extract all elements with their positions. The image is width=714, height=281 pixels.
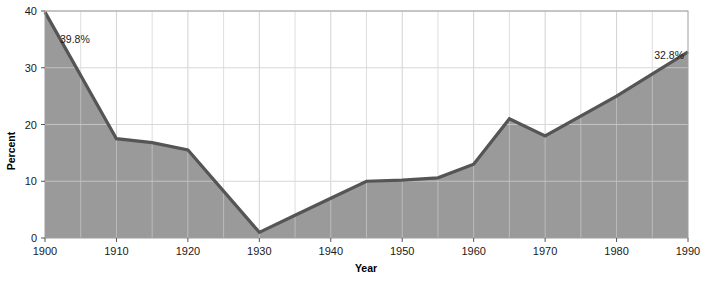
x-tick-label: 1990 (676, 245, 700, 257)
x-axis-ticks: 1900191019201930194019501960197019801990 (33, 238, 700, 257)
x-tick-label: 1910 (104, 245, 128, 257)
y-tick-label: 10 (25, 175, 37, 187)
y-axis-ticks: 010203040 (25, 5, 45, 244)
x-tick-label: 1980 (604, 245, 628, 257)
annotation-end-value: 32.8% (654, 49, 684, 61)
y-tick-label: 40 (25, 5, 37, 17)
chart-container: 1900191019201930194019501960197019801990… (0, 0, 714, 281)
x-tick-label: 1960 (461, 245, 485, 257)
x-tick-label: 1900 (33, 245, 57, 257)
x-tick-label: 1930 (247, 245, 271, 257)
y-tick-label: 20 (25, 119, 37, 131)
x-tick-label: 1970 (533, 245, 557, 257)
x-axis-title: Year (355, 262, 377, 274)
y-tick-label: 0 (31, 232, 37, 244)
x-tick-label: 1940 (319, 245, 343, 257)
x-tick-label: 1920 (176, 245, 200, 257)
annotation-start-value: 39.8% (60, 33, 90, 45)
x-tick-label: 1950 (390, 245, 414, 257)
y-axis-title: Percent (5, 131, 17, 170)
y-tick-label: 30 (25, 62, 37, 74)
area-chart: 1900191019201930194019501960197019801990… (0, 0, 714, 281)
